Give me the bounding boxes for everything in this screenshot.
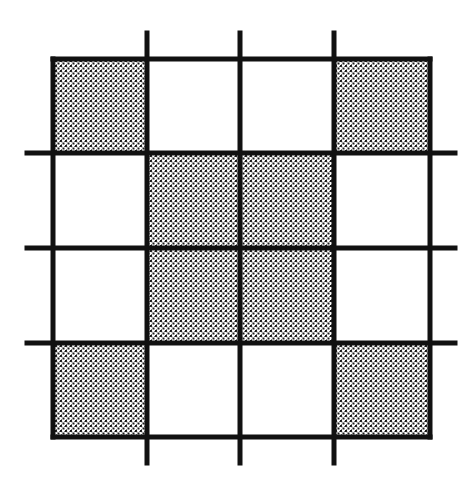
grid-svg	[0, 0, 464, 479]
shaded-cell-r0-c0	[53, 59, 147, 153]
shaded-cell-r1-c1	[147, 153, 240, 248]
shaded-cell-r0-c3	[334, 59, 430, 153]
grid-diagram	[0, 0, 464, 479]
shaded-cell-r3-c3	[334, 343, 430, 437]
shaded-cell-r3-c0	[53, 343, 147, 437]
shaded-cell-r2-c1	[147, 248, 240, 343]
shaded-cell-r2-c2	[240, 248, 334, 343]
shaded-cell-r1-c2	[240, 153, 334, 248]
